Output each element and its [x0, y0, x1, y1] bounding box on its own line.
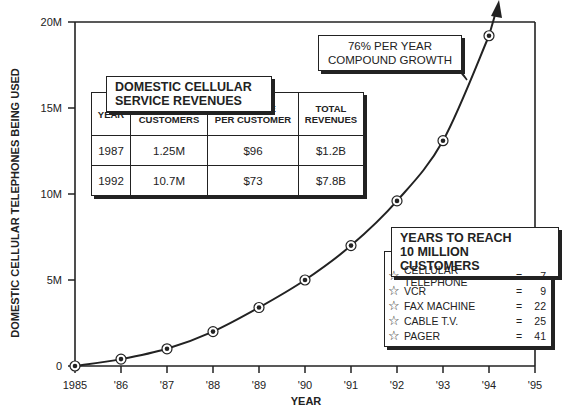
cell-revenue-per-customer: $73: [208, 166, 299, 196]
y-ticks: 05M10M15M20M: [41, 16, 75, 372]
legend-item-value: 25: [530, 315, 546, 327]
x-tick-label: '88: [206, 379, 220, 391]
cell-customers: 1.25M: [131, 136, 208, 166]
data-point-center: [349, 243, 354, 248]
growth-callout: 76% PER YEAR COMPOUND GROWTH: [318, 35, 462, 71]
data-point-center: [211, 329, 216, 334]
equals-sign: =: [516, 270, 530, 282]
x-tick-label: '95: [528, 379, 542, 391]
legend-item: ☆VCR=9: [388, 283, 546, 298]
legend-item: ☆FAX MACHINE=22: [388, 298, 546, 313]
table-row: 1992 10.7M $73 $7.8B: [92, 166, 364, 196]
x-tick-label: '94: [482, 379, 496, 391]
y-tick-label: 10M: [41, 188, 62, 200]
cell-year: 1987: [92, 136, 131, 166]
data-point-center: [395, 199, 400, 204]
legend-item-value: 22: [530, 300, 546, 312]
data-point-center: [441, 138, 446, 143]
legend-item-name: FAX MACHINE: [404, 300, 516, 312]
x-tick-label: '92: [390, 379, 404, 391]
legend-item-name: CABLE T.V.: [404, 315, 516, 327]
x-tick-label: '93: [436, 379, 450, 391]
star-icon: ☆: [388, 329, 404, 342]
equals-sign: =: [516, 330, 530, 342]
legend-item: ☆CELLULAR TELEPHONE=7: [388, 268, 546, 283]
legend-item-value: 41: [530, 330, 546, 342]
legend-item-name: PAGER: [404, 330, 516, 342]
star-icon: ☆: [388, 269, 404, 282]
x-tick-label: '90: [298, 379, 312, 391]
cell-total-revenues: $7.8B: [299, 166, 364, 196]
star-icon: ☆: [388, 284, 404, 297]
x-tick-label: '86: [114, 379, 128, 391]
data-point-center: [73, 364, 78, 369]
star-icon: ☆: [388, 314, 404, 327]
data-point-center: [487, 33, 492, 38]
header-total-revenues: TOTAL REVENUES: [299, 93, 364, 136]
y-tick-label: 15M: [41, 102, 62, 114]
y-tick-label: 0: [56, 360, 62, 372]
equals-sign: =: [516, 285, 530, 297]
cell-total-revenues: $1.2B: [299, 136, 364, 166]
years-to-reach-list: ☆CELLULAR TELEPHONE=7☆VCR=9☆FAX MACHINE=…: [388, 268, 546, 343]
x-axis-label: YEAR: [291, 395, 322, 407]
x-tick-label: '91: [344, 379, 358, 391]
equals-sign: =: [516, 315, 530, 327]
legend-item: ☆PAGER=41: [388, 328, 546, 343]
revenue-table-title: DOMESTIC CELLULAR SERVICE REVENUES: [106, 76, 272, 112]
cell-year: 1992: [92, 166, 131, 196]
legend-item-name: VCR: [404, 285, 516, 297]
y-tick-label: 20M: [41, 16, 62, 28]
legend-item-value: 7: [530, 270, 546, 282]
data-point-center: [165, 347, 170, 352]
cell-customers: 10.7M: [131, 166, 208, 196]
x-tick-label: '87: [160, 379, 174, 391]
legend-item-value: 9: [530, 285, 546, 297]
table-row: 1987 1.25M $96 $1.2B: [92, 136, 364, 166]
legend-item: ☆CABLE T.V.=25: [388, 313, 546, 328]
x-tick-label: '89: [252, 379, 266, 391]
star-icon: ☆: [388, 299, 404, 312]
data-point-center: [303, 278, 308, 283]
y-tick-label: 5M: [47, 274, 62, 286]
x-tick-label: 1985: [63, 379, 87, 391]
data-point-center: [257, 305, 262, 310]
equals-sign: =: [516, 300, 530, 312]
data-point-center: [119, 357, 124, 362]
cell-revenue-per-customer: $96: [208, 136, 299, 166]
arrow-head-icon: [491, 0, 502, 18]
growth-chart: 05M10M15M20M 1985'86'87'88'89'90'91'92'9…: [0, 0, 572, 412]
y-axis-label: DOMESTIC CELLULAR TELEPHONES BEING USED: [9, 68, 21, 338]
x-ticks: 1985'86'87'88'89'90'91'92'93'94'95: [63, 366, 542, 391]
